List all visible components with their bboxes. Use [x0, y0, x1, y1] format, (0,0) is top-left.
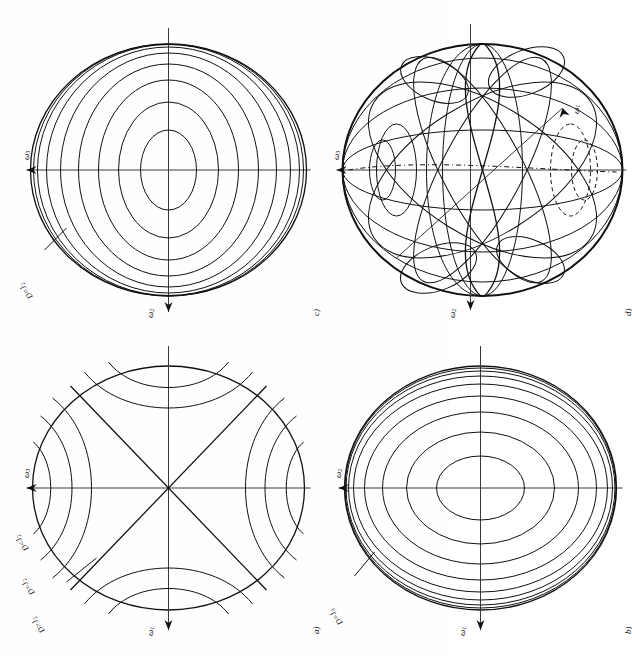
- panel-a-plot: [18, 338, 318, 638]
- side-cap-left-1: [393, 233, 484, 304]
- panel-b-plot: [330, 338, 630, 638]
- panel-d-plot: [330, 20, 630, 320]
- leader-line-b: [354, 552, 374, 576]
- panel-b-label-omega1: ω1: [456, 627, 467, 636]
- panel-b-label-omega2: ω2: [332, 469, 343, 478]
- panel-b-caption: b): [622, 627, 632, 635]
- side-cap-left-2: [489, 227, 571, 293]
- panel-a-label-omega3: ω3: [20, 469, 31, 478]
- panel-a-label-omega1: ω1: [144, 627, 155, 636]
- panel-c-caption: c): [310, 309, 320, 316]
- panel-a: ω3 ω1 D>J2 D=J2 D<J2 a): [18, 338, 318, 638]
- panel-d-label-omega2: ω2: [446, 309, 457, 318]
- panel-b: ω2 ω1 D=J3 b): [330, 338, 630, 638]
- panel-d-label-omega3: ω3: [330, 151, 341, 160]
- panel-c-label-omega2: ω2: [144, 309, 155, 318]
- panel-a-caption: a): [310, 627, 320, 635]
- panel-c-label-omega3: ω3: [20, 151, 31, 160]
- side-cap-right-1: [481, 37, 572, 108]
- panel-c-plot: [18, 20, 318, 320]
- panel-d: ω3 ω2 ω1 d): [330, 20, 630, 320]
- panel-d-caption: d): [622, 309, 632, 317]
- panel-d-label-omega1: ω1: [570, 105, 581, 114]
- panel-c: ω3 ω2 D=J2 c): [18, 20, 318, 320]
